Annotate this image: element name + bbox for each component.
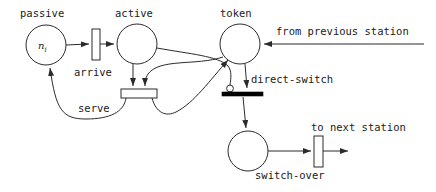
place-label-active: active [115, 8, 153, 19]
marking-subscript: i [44, 46, 46, 54]
arc-active-to-direct-switch-inhibitor [157, 48, 231, 85]
transition-switch-over[interactable] [314, 136, 323, 167]
transition-direct-switch[interactable] [222, 92, 263, 96]
place-label-token: token [220, 8, 252, 19]
arc-token-to-serve [145, 57, 223, 86]
transition-label-arrive: arrive [74, 67, 112, 78]
transition-label-serve: serve [78, 103, 110, 114]
place-token[interactable] [220, 24, 260, 64]
inhibitor-circle-icon [227, 85, 234, 92]
label-from-previous-station: from previous station [276, 26, 409, 37]
place-marking-passive: ni [38, 41, 47, 54]
label-to-next-station: to next station [311, 122, 406, 133]
transition-serve[interactable] [121, 89, 157, 98]
arc-token-to-direct-switch [245, 64, 247, 88]
transition-label-direct-switch: direct-switch [251, 74, 333, 85]
place-label-passive: passive [20, 8, 64, 19]
place-active[interactable] [117, 24, 157, 64]
place-waiting[interactable] [228, 131, 268, 171]
petri-net-diagram: passive active token ni arrive serve dir… [0, 0, 436, 192]
arc-passive-to-arrive [66, 44, 89, 45]
transition-label-switch-over: switch-over [255, 170, 325, 181]
arc-serve-to-token [152, 60, 228, 114]
arc-direct-switch-to-waiting [243, 97, 246, 128]
transition-arrive[interactable] [92, 29, 100, 60]
